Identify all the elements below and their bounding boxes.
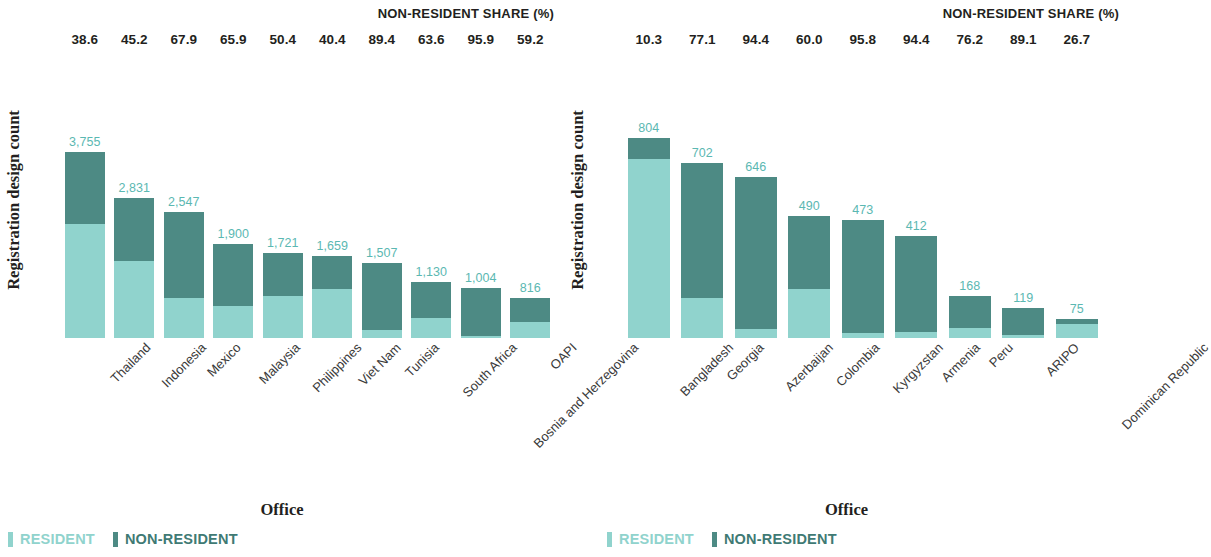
bar-segment-resident[interactable] xyxy=(411,318,451,338)
nonresident-share-value: 95.9 xyxy=(456,32,506,47)
bar-segment-nonresident[interactable] xyxy=(411,282,451,318)
bar-value-label: 2,831 xyxy=(98,181,170,195)
bar-segment-resident[interactable] xyxy=(213,306,253,338)
x-tick-label: Peru xyxy=(986,340,1016,370)
chart-panel-left: NON-RESIDENT SHARE (%) 38.645.267.965.95… xyxy=(0,0,564,557)
bar-value-label: 412 xyxy=(879,219,953,233)
x-tick-label: Azerbaijan xyxy=(782,340,836,394)
legend-item-nonresident-left: NON-RESIDENT xyxy=(113,531,238,547)
x-axis-title-left: Office xyxy=(0,500,564,520)
x-tick-label: Philippines xyxy=(309,340,364,395)
bar-group[interactable]: 804 xyxy=(628,60,670,338)
legend-left: RESIDENT NON-RESIDENT xyxy=(8,531,238,547)
x-tick-label: Thailand xyxy=(107,340,153,386)
bar-segment-resident[interactable] xyxy=(1056,324,1098,338)
bar-segment-nonresident[interactable] xyxy=(788,216,830,289)
bar-group[interactable]: 646 xyxy=(735,60,777,338)
bar-segment-nonresident[interactable] xyxy=(461,288,501,336)
x-tick-label: ARIPO xyxy=(1043,340,1082,379)
bar-group[interactable]: 816 xyxy=(510,60,550,338)
x-axis-title-right: Office xyxy=(564,500,1129,520)
y-axis-title-right-text: Registration design count xyxy=(568,110,588,290)
nonresident-share-value: 94.4 xyxy=(890,32,944,47)
bar-group[interactable]: 473 xyxy=(842,60,884,338)
x-tick-label: South Africa xyxy=(460,340,520,400)
nonresident-share-value: 10.3 xyxy=(622,32,676,47)
bar-segment-resident[interactable] xyxy=(65,224,105,338)
bar-value-label: 473 xyxy=(826,203,900,217)
bar-group[interactable]: 1,721 xyxy=(263,60,303,338)
bar-segment-resident[interactable] xyxy=(362,330,402,338)
legend-swatch-resident-icon xyxy=(607,532,612,547)
bar-group[interactable]: 75 xyxy=(1056,60,1098,338)
legend-label-nonresident: NON-RESIDENT xyxy=(724,531,837,547)
x-tick-label: Tunisia xyxy=(402,340,442,380)
bar-segment-resident[interactable] xyxy=(949,328,991,338)
bar-segment-resident[interactable] xyxy=(164,298,204,338)
bar-segment-nonresident[interactable] xyxy=(263,253,303,296)
x-tick-labels-left: ThailandIndonesiaMexicoMalaysiaPhilippin… xyxy=(60,340,555,490)
bar-segment-resident[interactable] xyxy=(263,296,303,338)
nonresident-share-row-right: 10.377.194.460.095.894.476.289.126.7 xyxy=(622,32,1104,47)
bar-segment-nonresident[interactable] xyxy=(735,177,777,329)
bar-group[interactable]: 3,755 xyxy=(65,60,105,338)
bar-group[interactable]: 490 xyxy=(788,60,830,338)
bar-group[interactable]: 1,659 xyxy=(312,60,352,338)
legend-label-resident: RESIDENT xyxy=(619,531,694,547)
nonresident-share-value: 76.2 xyxy=(943,32,997,47)
bar-group[interactable]: 1,130 xyxy=(411,60,451,338)
nonresident-share-value: 77.1 xyxy=(676,32,730,47)
bar-group[interactable]: 2,547 xyxy=(164,60,204,338)
bar-segment-resident[interactable] xyxy=(510,322,550,338)
bar-group[interactable]: 1,507 xyxy=(362,60,402,338)
legend-swatch-nonresident-icon xyxy=(113,532,118,547)
bar-segment-nonresident[interactable] xyxy=(949,296,991,328)
bar-group[interactable]: 1,004 xyxy=(461,60,501,338)
bar-segment-resident[interactable] xyxy=(312,289,352,338)
bar-segment-resident[interactable] xyxy=(461,336,501,338)
bar-segment-nonresident[interactable] xyxy=(1002,308,1044,335)
bar-segment-nonresident[interactable] xyxy=(312,256,352,289)
legend-item-resident-left: RESIDENT xyxy=(8,531,95,547)
x-tick-label: Armenia xyxy=(938,340,983,385)
bar-segment-nonresident[interactable] xyxy=(842,220,884,333)
bar-group[interactable]: 1,900 xyxy=(213,60,253,338)
bar-segment-nonresident[interactable] xyxy=(628,138,670,159)
bar-segment-resident[interactable] xyxy=(895,332,937,338)
bar-segment-resident[interactable] xyxy=(735,329,777,338)
bar-segment-nonresident[interactable] xyxy=(895,236,937,332)
nonresident-share-value: 65.9 xyxy=(209,32,259,47)
legend-right: RESIDENT NON-RESIDENT xyxy=(607,531,837,547)
bar-segment-nonresident[interactable] xyxy=(213,244,253,306)
legend-item-resident-right: RESIDENT xyxy=(607,531,694,547)
bar-value-label: 3,755 xyxy=(49,135,121,149)
x-tick-labels-right: BangladeshGeorgiaAzerbaijanColombiaKyrgy… xyxy=(622,340,1104,490)
bar-group[interactable]: 168 xyxy=(949,60,991,338)
nonresident-share-value: 26.7 xyxy=(1050,32,1104,47)
bar-group[interactable]: 119 xyxy=(1002,60,1044,338)
bar-segment-nonresident[interactable] xyxy=(681,163,723,298)
nonresident-share-title-right: NON-RESIDENT SHARE (%) xyxy=(943,6,1119,21)
x-tick-label: Kyrgyzstan xyxy=(890,340,946,396)
bar-segment-nonresident[interactable] xyxy=(164,212,204,298)
bar-segment-resident[interactable] xyxy=(681,298,723,338)
bar-group[interactable]: 702 xyxy=(681,60,723,338)
bar-segment-nonresident[interactable] xyxy=(510,298,550,322)
bar-group[interactable]: 412 xyxy=(895,60,937,338)
bar-value-label: 702 xyxy=(665,146,739,160)
bar-segment-resident[interactable] xyxy=(628,159,670,338)
legend-label-nonresident: NON-RESIDENT xyxy=(125,531,238,547)
bar-segment-resident[interactable] xyxy=(114,261,154,338)
nonresident-share-title-left: NON-RESIDENT SHARE (%) xyxy=(378,6,554,21)
nonresident-share-value: 40.4 xyxy=(308,32,358,47)
bar-value-label: 2,547 xyxy=(148,195,220,209)
y-axis-title-left: Registration design count xyxy=(0,60,28,340)
bar-segment-resident[interactable] xyxy=(842,333,884,338)
nonresident-share-value: 67.9 xyxy=(159,32,209,47)
bar-segment-resident[interactable] xyxy=(788,289,830,338)
legend-label-resident: RESIDENT xyxy=(20,531,95,547)
bar-segment-resident[interactable] xyxy=(1002,335,1044,338)
bar-value-label: 804 xyxy=(612,121,686,135)
nonresident-share-value: 59.2 xyxy=(506,32,556,47)
